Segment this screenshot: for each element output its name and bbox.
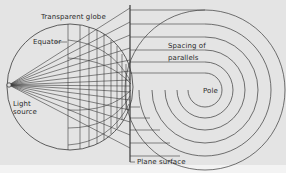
globe-grid-verticals: [68, 24, 126, 150]
label-transparent-globe: Transparent globe: [41, 13, 106, 21]
diagram-drawing: [0, 0, 286, 173]
light-source-point: [7, 83, 11, 87]
label-equator: Equator: [33, 38, 61, 46]
label-spacing-of: Spacing of: [168, 42, 206, 50]
label-light-source-1: Light: [13, 100, 31, 108]
label-pole: Pole: [203, 87, 218, 95]
label-light-source-2: source: [13, 108, 37, 116]
globe-parallels: [68, 40, 131, 145]
label-parallels: parallels: [168, 54, 199, 62]
parallel-projection-lines: [130, 10, 205, 156]
label-plane-surface: Plane surface: [137, 158, 186, 166]
projection-diagram: Transparent globe Equator Light source S…: [0, 0, 286, 173]
